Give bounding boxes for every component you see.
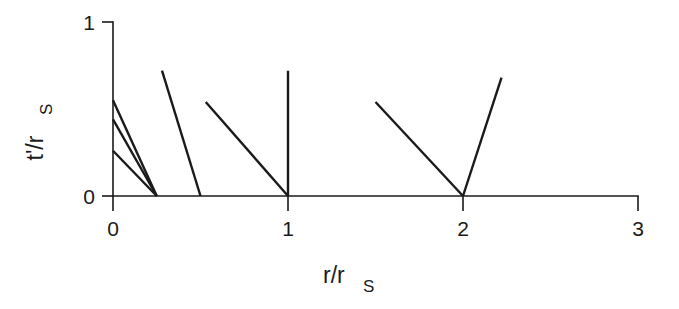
x-axis-title: r/r S xyxy=(323,262,374,296)
data-line-group xyxy=(113,71,502,196)
chart-figure: 1 0 0 1 2 3 r/r S t'/r S xyxy=(0,0,679,309)
x-tick-label-0: 0 xyxy=(107,217,119,240)
plot-svg: 1 0 0 1 2 3 r/r S t'/r S xyxy=(0,0,679,309)
x-tick-label-3: 3 xyxy=(632,217,644,240)
y-axis-title-main: t'/r xyxy=(22,135,48,160)
y-tick-label-0: 0 xyxy=(83,185,95,208)
x-axis-title-sub: S xyxy=(363,277,374,296)
x-tick-label-1: 1 xyxy=(282,217,294,240)
y-axis-title-sub: S xyxy=(37,104,56,115)
data-line-infall-trajectory-5 xyxy=(206,102,288,196)
data-line-infall-trajectory-1 xyxy=(113,100,157,196)
x-tick-label-2: 2 xyxy=(457,217,469,240)
y-axis-title: t'/r S xyxy=(22,104,56,161)
data-line-ingoing-ray-to-2 xyxy=(376,102,464,196)
y-tick-label-1: 1 xyxy=(83,11,95,34)
data-line-outgoing-ray-from-2 xyxy=(463,78,502,196)
data-line-infall-trajectory-4 xyxy=(162,71,201,196)
x-axis-title-main: r/r xyxy=(323,262,345,288)
